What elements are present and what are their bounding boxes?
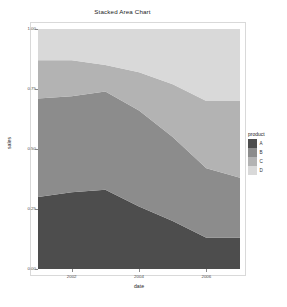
y-tick-mark — [35, 149, 38, 150]
x-axis-title: date — [38, 283, 240, 289]
legend-item-label: C — [260, 159, 263, 164]
y-tick-label: 1.00 — [0, 26, 36, 31]
x-tick-mark — [139, 269, 140, 272]
legend-swatch-icon — [248, 148, 257, 157]
area-layers — [38, 29, 240, 269]
y-tick-mark — [35, 269, 38, 270]
legend-item-label: D — [260, 168, 263, 173]
x-tick-label: 2002 — [57, 274, 87, 279]
chart-container: Stacked Area Chart date sales product AB… — [0, 0, 287, 307]
x-tick-mark — [72, 269, 73, 272]
y-tick-label: 0.25 — [0, 206, 36, 211]
legend-item-d[interactable]: D — [248, 166, 286, 175]
legend-swatch-icon — [248, 166, 257, 175]
y-tick-label: 0.75 — [0, 86, 36, 91]
stacked-area-svg — [38, 29, 240, 269]
legend-item-b[interactable]: B — [248, 148, 286, 157]
legend-item-label: B — [260, 150, 263, 155]
legend: product ABCD — [248, 131, 286, 175]
y-tick-mark — [35, 89, 38, 90]
x-tick-label: 2006 — [191, 274, 221, 279]
legend-item-a[interactable]: A — [248, 139, 286, 148]
y-tick-mark — [35, 29, 38, 30]
legend-items: ABCD — [248, 139, 286, 175]
legend-item-label: A — [260, 141, 263, 146]
legend-swatch-icon — [248, 157, 257, 166]
x-tick-mark — [206, 269, 207, 272]
y-tick-mark — [35, 209, 38, 210]
chart-title: Stacked Area Chart — [0, 8, 245, 15]
plot-panel — [38, 29, 240, 269]
legend-swatch-icon — [248, 139, 257, 148]
y-tick-label: 0.50 — [0, 146, 36, 151]
legend-title: product — [248, 131, 286, 137]
legend-item-c[interactable]: C — [248, 157, 286, 166]
y-tick-label: 0.00 — [0, 266, 36, 271]
x-tick-label: 2004 — [124, 274, 154, 279]
y-axis-title: sales — [6, 118, 12, 168]
